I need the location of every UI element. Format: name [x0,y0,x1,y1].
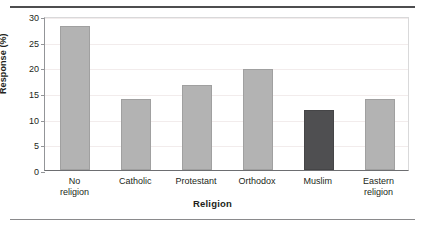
bar-fill [60,26,90,170]
bar-fill [304,110,334,170]
bar-no-religion [60,26,90,170]
y-axis-title: Response (%) [0,33,8,94]
y-axis-tick-label: 5 [34,142,39,151]
gridline [45,121,408,122]
y-axis-tick [41,69,45,70]
x-axis-tick-label: Catholic [105,176,166,187]
x-axis-tick-label: No religion [44,176,105,197]
gridline [45,95,408,96]
y-axis-tick [41,44,45,45]
x-axis-title: Religion [0,198,425,209]
bottom-divider-rule [10,219,415,220]
y-axis-tick-label: 10 [29,116,39,125]
y-axis-tick [41,95,45,96]
bar-fill [243,69,273,170]
gridline [45,146,408,147]
y-axis-tick-label: 20 [29,65,39,74]
y-axis-tick-label: 15 [29,91,39,100]
bar-eastern-religion [365,99,395,170]
y-axis-tick-label: 0 [34,168,39,177]
bar-fill [365,99,395,170]
gridline [45,69,408,70]
bar-catholic [121,99,151,170]
y-axis-tick [41,121,45,122]
bar-fill [121,99,151,170]
bar-muslim [304,110,334,170]
y-axis-tick [41,18,45,19]
x-axis-tick-label: Eastern religion [348,176,409,197]
y-axis-tick [41,146,45,147]
x-axis-tick-label: Muslim [287,176,348,187]
bar-orthodox [243,69,273,170]
top-divider-rule [10,6,415,8]
plot-area: 051015202530 [44,17,409,171]
bar-protestant [182,85,212,170]
y-axis-tick-label: 30 [29,14,39,23]
chart-figure: Response (%) 051015202530 No religionCat… [0,0,425,226]
y-axis-tick-label: 25 [29,39,39,48]
bar-fill [182,85,212,170]
y-axis-tick [41,172,45,173]
x-axis-tick-label: Orthodox [227,176,288,187]
gridline [45,44,408,45]
x-axis-tick-label: Protestant [166,176,227,187]
gridline [45,18,408,19]
